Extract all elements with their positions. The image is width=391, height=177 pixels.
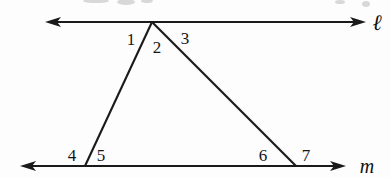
angle-label-3: 3: [181, 29, 190, 48]
line-l-group: [45, 17, 366, 27]
angle-label-4: 4: [68, 146, 77, 165]
angle-label-1: 1: [127, 30, 136, 49]
angle-label-7: 7: [302, 146, 311, 165]
transversal-right-segment: [152, 22, 296, 166]
transversal-left-segment: [85, 22, 152, 166]
line-label-l: ℓ: [372, 10, 382, 35]
angle-label-2: 2: [153, 38, 162, 57]
angle-label-6: 6: [259, 146, 268, 165]
line-label-m: m: [360, 155, 374, 177]
scan-artifact-smudges: [83, 0, 370, 7]
geometry-diagram: 1 2 3 4 5 6 7 ℓ m: [0, 0, 391, 177]
geometry-canvas: 1 2 3 4 5 6 7 ℓ m: [0, 0, 391, 177]
angle-label-5: 5: [97, 146, 106, 165]
